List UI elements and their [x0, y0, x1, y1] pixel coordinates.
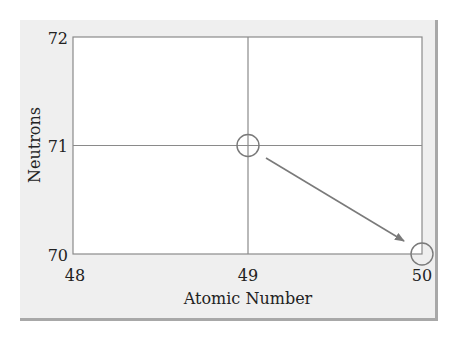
x-tick-50: 50 [412, 266, 432, 285]
x-tick-48: 48 [65, 266, 85, 285]
y-tick-70: 70 [48, 246, 68, 265]
y-tick-71: 71 [48, 137, 68, 156]
chart: 72 71 70 48 49 50 Atomic Number Neutrons [0, 0, 455, 341]
x-tick-49: 49 [238, 266, 258, 285]
y-tick-72: 72 [48, 29, 68, 48]
y-axis-label: Neutrons [25, 107, 44, 183]
x-axis-label: Atomic Number [183, 289, 313, 308]
